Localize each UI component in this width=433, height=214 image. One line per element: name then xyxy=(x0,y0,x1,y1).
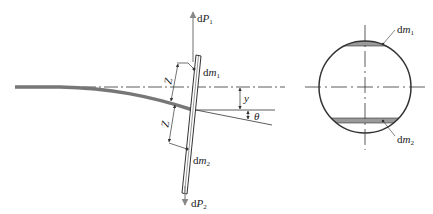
vibration-diagram: dP1 dP2 dm1 dm2 Z Z y θ dm1 dm2 xyxy=(0,0,433,214)
label-dP1: dP1 xyxy=(197,12,213,26)
deflected-shaft xyxy=(15,87,193,110)
cross-section-view: dm1 dm2 xyxy=(305,23,425,150)
label-right-dm2: dm2 xyxy=(397,133,414,147)
label-dP2: dP2 xyxy=(191,197,207,211)
label-z-lower: Z xyxy=(158,119,171,128)
label-theta: θ xyxy=(254,110,260,122)
dim-ext-upper-a xyxy=(188,63,194,69)
label-y: y xyxy=(243,92,249,104)
dim-ext-lower xyxy=(169,143,187,149)
label-z-upper: Z xyxy=(161,76,174,85)
tangent-line xyxy=(196,110,272,125)
disc-midline xyxy=(185,56,199,194)
label-dm2: dm2 xyxy=(193,154,210,168)
label-right-dm1: dm1 xyxy=(397,23,414,37)
label-dm1: dm1 xyxy=(203,66,220,80)
side-view: dP1 dP2 dm1 dm2 Z Z y θ xyxy=(15,12,285,211)
leader-dm1 xyxy=(383,30,395,44)
